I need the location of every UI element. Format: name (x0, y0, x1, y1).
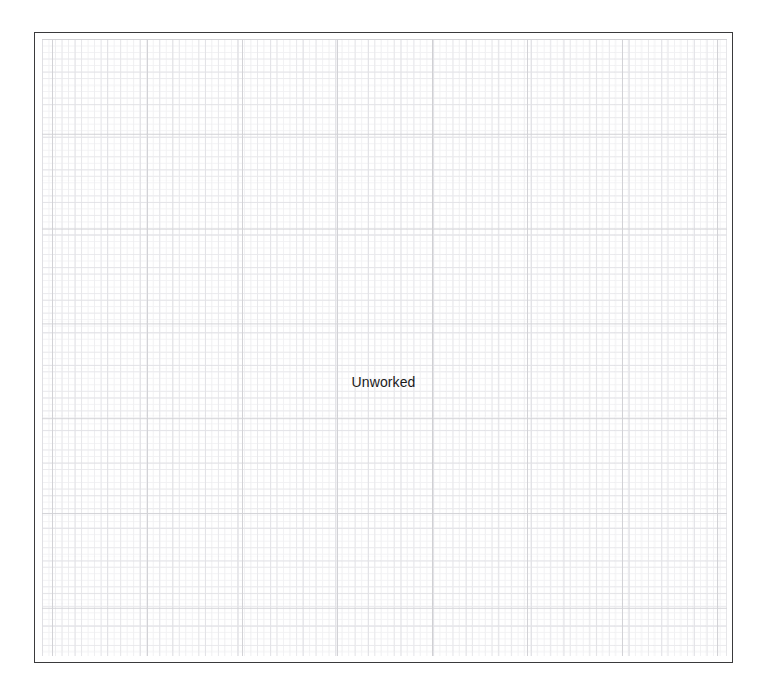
canvas-status-label: Unworked (35, 373, 732, 391)
grid-inset (35, 33, 732, 662)
graph-paper-canvas[interactable]: Unworked (34, 32, 733, 663)
grid-minor-lines (42, 39, 727, 656)
grid-paper-texture (42, 39, 727, 656)
grid-major-lines (42, 39, 727, 656)
grid-sub-major-lines (42, 39, 727, 656)
grid-medium-lines (42, 39, 727, 656)
